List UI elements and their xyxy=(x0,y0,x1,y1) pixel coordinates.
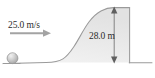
cliff-height-label: 28.0 m xyxy=(89,32,115,42)
initial-speed-label: 25.0 m/s xyxy=(8,21,40,31)
ball-shape xyxy=(7,53,18,64)
velocity-arrow-icon xyxy=(10,30,51,37)
diagram-canvas xyxy=(0,0,155,78)
physics-diagram: 25.0 m/s 28.0 m xyxy=(0,0,155,78)
